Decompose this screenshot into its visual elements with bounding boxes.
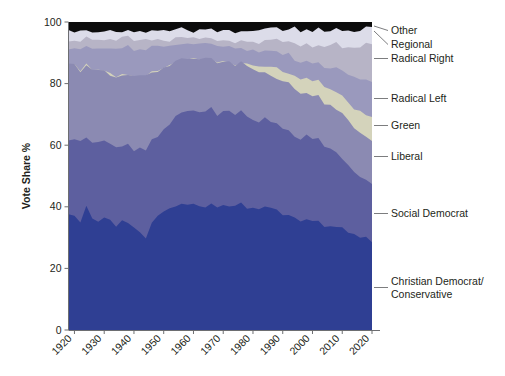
series-label-other: Other	[391, 24, 418, 36]
stacked-areas	[69, 22, 373, 330]
series-label-green: Green	[391, 119, 420, 131]
chart-svg: 020406080100 192019301940195019601970198…	[0, 0, 505, 376]
series-label-radical-left: Radical Left	[391, 92, 447, 104]
series-label-liberal: Liberal	[391, 150, 423, 162]
y-tick-label-0: 0	[56, 324, 62, 336]
series-label-radical-right: Radical Right	[391, 52, 454, 64]
series-label-social-democrat: Social Democrat	[391, 207, 468, 219]
series-label-christian-democrat-line1: Christian Democrat/	[391, 275, 484, 287]
y-tick-label-20: 20	[50, 262, 62, 274]
series-label-christian-democrat-line2: Conservative	[391, 288, 452, 300]
y-tick-label-100: 100	[44, 16, 62, 28]
y-tick-label-80: 80	[50, 77, 62, 89]
y-tick-label-60: 60	[50, 139, 62, 151]
vote-share-stacked-area-chart: 020406080100 192019301940195019601970198…	[0, 0, 505, 376]
y-tick-label-40: 40	[50, 200, 62, 212]
series-label-regional: Regional	[391, 38, 432, 50]
y-axis-title: Vote Share %	[20, 142, 32, 209]
